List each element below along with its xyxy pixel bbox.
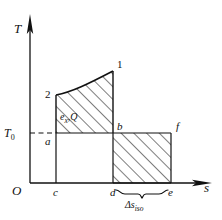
s-axis-label: s [204, 180, 209, 195]
point-label-1: 1 [117, 58, 123, 70]
t0-label: T0 [4, 126, 15, 142]
exergy-label-sub2: Q [70, 111, 78, 122]
point-label-a: a [45, 135, 51, 147]
ts-diagram-figure: T s O T0 1 2 a b c d e f ex,Q Δsiso [0, 0, 222, 220]
t-axis-label: T [14, 21, 22, 36]
point-label-d: d [110, 186, 116, 198]
delta-s-label-main: Δs [124, 199, 135, 210]
delta-s-label: Δsiso [124, 199, 144, 213]
point-label-e: e [168, 186, 173, 198]
entropy-rect-fill [108, 128, 178, 188]
origin-label: O [12, 183, 22, 198]
point-label-c: c [53, 186, 58, 198]
point-label-b: b [117, 120, 123, 132]
delta-s-brace [116, 190, 168, 198]
t-axis [27, 14, 33, 183]
point-label-2: 2 [45, 88, 51, 100]
point-label-f: f [176, 120, 181, 132]
exergy-region-fill [50, 60, 125, 145]
t0-label-sub: 0 [11, 133, 15, 142]
delta-s-label-sub: iso [135, 204, 144, 213]
